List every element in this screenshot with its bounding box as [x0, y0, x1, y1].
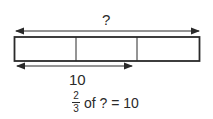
equation-text: of ? = 10 [84, 95, 139, 111]
tape-bar [15, 37, 200, 61]
fraction: 2 3 [72, 91, 80, 114]
total-label: ? [102, 12, 110, 27]
fraction-numerator: 2 [73, 91, 79, 101]
part-label: 10 [69, 72, 86, 87]
equation: 2 3 of ? = 10 [72, 91, 139, 114]
fraction-denominator: 3 [73, 104, 79, 114]
